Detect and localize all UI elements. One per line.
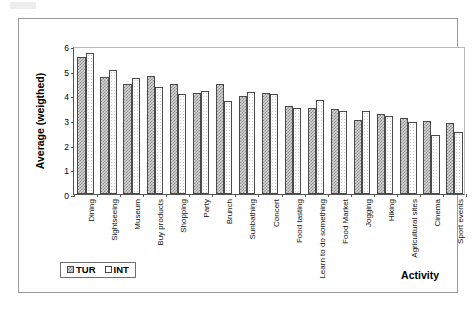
bar-tur bbox=[377, 114, 385, 194]
bar-int bbox=[362, 111, 370, 194]
x-tick-mark bbox=[328, 194, 329, 197]
legend-swatch-tur-icon bbox=[67, 266, 74, 273]
y-tick-label: 4 bbox=[64, 93, 69, 102]
legend-entry-tur: TUR bbox=[67, 265, 96, 275]
bar-tur bbox=[262, 93, 270, 194]
bar-group bbox=[212, 48, 235, 194]
x-axis-title: Activity bbox=[401, 269, 439, 281]
bar-group bbox=[120, 48, 143, 194]
bar-int bbox=[132, 78, 140, 194]
bar-int bbox=[293, 108, 301, 194]
bar-int bbox=[316, 100, 324, 194]
bar-tur bbox=[446, 123, 454, 194]
x-category-label: Hiking bbox=[388, 199, 396, 221]
x-tick-mark bbox=[143, 194, 144, 197]
x-tick-mark bbox=[374, 194, 375, 197]
x-tick-mark bbox=[212, 194, 213, 197]
bar-tur bbox=[100, 77, 108, 194]
y-tick-label: 1 bbox=[64, 167, 69, 176]
legend-label-tur: TUR bbox=[76, 265, 96, 275]
bar-tur bbox=[147, 76, 155, 194]
x-tick-mark bbox=[305, 194, 306, 197]
bar-int bbox=[431, 135, 439, 194]
bar-group bbox=[305, 48, 328, 194]
x-category-label: Sightseeing bbox=[111, 199, 119, 241]
legend-entry-int: INT bbox=[105, 265, 129, 275]
bar-group bbox=[420, 48, 443, 194]
x-tick-mark bbox=[74, 194, 75, 197]
bar-group bbox=[328, 48, 351, 194]
x-tick-mark bbox=[120, 194, 121, 197]
bar-tur bbox=[239, 96, 247, 194]
bar-tur bbox=[193, 93, 201, 194]
bars-layer bbox=[74, 48, 464, 194]
chart-legend: TUR INT bbox=[60, 262, 136, 278]
x-category-label: Dining bbox=[88, 199, 96, 222]
y-tick-label: 3 bbox=[64, 118, 69, 127]
bar-tur bbox=[354, 120, 362, 194]
bar-int bbox=[224, 101, 232, 194]
x-category-label: Food Market bbox=[342, 199, 350, 244]
legend-swatch-int-icon bbox=[105, 266, 112, 273]
bar-int bbox=[385, 116, 393, 194]
x-tick-mark bbox=[443, 194, 444, 197]
bar-tur bbox=[216, 84, 224, 194]
bar-tur bbox=[285, 106, 293, 194]
bar-int bbox=[178, 94, 186, 194]
y-tick-label: 6 bbox=[64, 44, 69, 53]
x-category-label: Museum bbox=[134, 199, 142, 230]
x-tick-mark bbox=[97, 194, 98, 197]
x-category-label: Learn to do something bbox=[319, 199, 327, 279]
x-tick-mark bbox=[397, 194, 398, 197]
x-category-label: Cinema bbox=[434, 199, 442, 227]
x-tick-mark bbox=[235, 194, 236, 197]
x-tick-mark bbox=[420, 194, 421, 197]
bar-int bbox=[155, 87, 163, 194]
x-category-label: Sunbathing bbox=[249, 199, 257, 239]
bar-tur bbox=[308, 108, 316, 194]
bar-int bbox=[86, 53, 94, 194]
bar-group bbox=[189, 48, 212, 194]
y-tick-label: 2 bbox=[64, 142, 69, 151]
x-category-label: Buy products bbox=[157, 199, 165, 246]
x-category-label: Party bbox=[203, 199, 211, 218]
bar-tur bbox=[331, 109, 339, 194]
plot-area: 0123456 bbox=[73, 47, 465, 195]
x-category-label: Shopping bbox=[180, 199, 188, 233]
bar-group bbox=[397, 48, 420, 194]
bar-int bbox=[454, 132, 462, 194]
x-tick-mark bbox=[258, 194, 259, 197]
bar-tur bbox=[77, 57, 85, 194]
bar-group bbox=[282, 48, 305, 194]
bar-tur bbox=[423, 121, 431, 194]
x-tick-mark bbox=[282, 194, 283, 197]
scan-artifact bbox=[10, 2, 36, 9]
bar-int bbox=[109, 70, 117, 194]
x-category-label: Food tasting bbox=[296, 199, 304, 243]
bar-group bbox=[374, 48, 397, 194]
bar-tur bbox=[123, 84, 131, 194]
y-tick-label: 5 bbox=[64, 68, 69, 77]
x-category-label: Concert bbox=[273, 199, 281, 227]
bar-group bbox=[443, 48, 466, 194]
x-tick-mark bbox=[166, 194, 167, 197]
bar-int bbox=[408, 122, 416, 194]
bar-int bbox=[270, 94, 278, 194]
bar-group bbox=[143, 48, 166, 194]
bar-tur bbox=[170, 84, 178, 194]
y-tick-label: 0 bbox=[64, 192, 69, 201]
y-axis-title: Average (weigthed) bbox=[34, 73, 46, 169]
legend-label-int: INT bbox=[114, 265, 129, 275]
x-tick-mark bbox=[189, 194, 190, 197]
bar-group bbox=[97, 48, 120, 194]
bar-group bbox=[351, 48, 374, 194]
x-tick-mark bbox=[466, 194, 467, 197]
x-category-label: Jogging bbox=[365, 199, 373, 227]
bar-tur bbox=[400, 118, 408, 194]
bar-group bbox=[166, 48, 189, 194]
x-tick-mark bbox=[351, 194, 352, 197]
x-category-label: Sport events bbox=[457, 199, 465, 244]
bar-int bbox=[201, 91, 209, 194]
x-category-label: Brunch bbox=[226, 199, 234, 224]
bar-group bbox=[258, 48, 281, 194]
